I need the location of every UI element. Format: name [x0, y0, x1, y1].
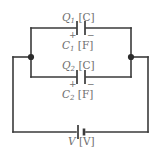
polarity-plus-capacitor-1: + [69, 31, 77, 40]
label-charge-2: Q2 [C] [62, 60, 95, 73]
label-capacitance-2: C2 [F] [62, 89, 93, 102]
junction-dot-right [128, 54, 134, 60]
circuit-diagram: Q1 [C] C1 [F] Q2 [C] C2 [F] V [V] + − + … [0, 0, 162, 157]
label-capacitance-1-unit: [F] [78, 39, 93, 51]
junction-dot-left [28, 54, 34, 60]
label-charge-2-symbol: Q [62, 59, 71, 71]
label-charge-1-symbol: Q [62, 11, 71, 23]
label-capacitance-1-subscript: 1 [70, 45, 74, 53]
polarity-plus-capacitor-2: + [69, 80, 77, 89]
label-charge-1-unit: [C] [78, 11, 94, 23]
label-charge-1-subscript: 1 [71, 17, 75, 25]
label-capacitance-2-unit: [F] [78, 88, 93, 100]
label-capacitance-1: C1 [F] [62, 40, 93, 53]
label-capacitance-2-subscript: 2 [70, 94, 74, 102]
polarity-minus-capacitor-1: − [87, 31, 95, 40]
label-capacitance-1-symbol: C [62, 39, 70, 51]
label-voltage-unit: [V] [79, 135, 95, 147]
label-charge-2-subscript: 2 [71, 65, 75, 73]
polarity-minus-capacitor-2: − [87, 80, 95, 89]
label-capacitance-2-symbol: C [62, 88, 70, 100]
label-voltage-symbol: V [68, 135, 76, 147]
label-charge-2-unit: [C] [78, 59, 94, 71]
label-voltage: V [V] [68, 136, 95, 147]
label-charge-1: Q1 [C] [62, 12, 95, 25]
